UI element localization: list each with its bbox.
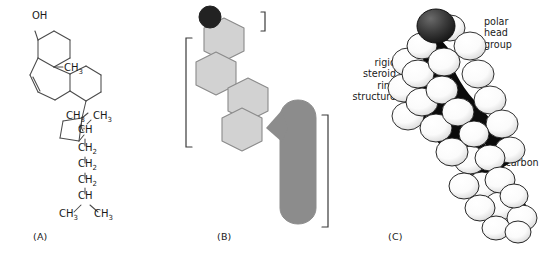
atom-label-ch3-c27: CH3 (94, 208, 113, 222)
atom-label-methyl-c10: CH3 (64, 62, 83, 76)
atom-label-ch2-c24: CH2 (78, 174, 97, 188)
cholesterol-schematic-drawing (170, 0, 375, 254)
atom-label-ch3-c26: CH3 (59, 208, 78, 222)
atom-label-methyl-c21: CH3 (93, 110, 112, 124)
atom-label-oh: OH (32, 10, 47, 21)
atom-label-ch-c25: CH (78, 190, 93, 201)
oxygen-atom-sphere (417, 9, 455, 43)
panel-label-a: (A) (33, 231, 48, 242)
bracket-polar-head-group (261, 12, 265, 31)
atom-label-ch2-c23: CH2 (78, 158, 97, 172)
atom-label-ch-c20: CH (78, 124, 93, 135)
bracket-hydrocarbon-tail (322, 115, 328, 227)
steroid-ring-shapes (196, 18, 268, 151)
hydrocarbon-tail-shape (266, 100, 316, 224)
polar-head-group-circle (199, 6, 221, 28)
panel-a-structural-formula: OH CH3 CH3 CH3 CH CH2 CH2 CH2 CH CH3 (0, 0, 185, 254)
bracket-steroid-ring (186, 38, 192, 147)
figure-cholesterol: OH CH3 CH3 CH3 CH CH2 CH2 CH2 CH CH3 (0, 0, 555, 254)
panel-c-space-filling-model: (C) (378, 0, 555, 254)
panel-label-b: (B) (217, 231, 232, 242)
cholesterol-space-filling-drawing (378, 0, 555, 254)
panel-b-schematic: polar head group rigid steroid ring stru… (170, 0, 375, 254)
atom-label-ch2-c22: CH2 (78, 142, 97, 156)
atom-label-methyl-c13: CH3 (66, 110, 85, 124)
panel-label-c: (C) (388, 231, 403, 242)
